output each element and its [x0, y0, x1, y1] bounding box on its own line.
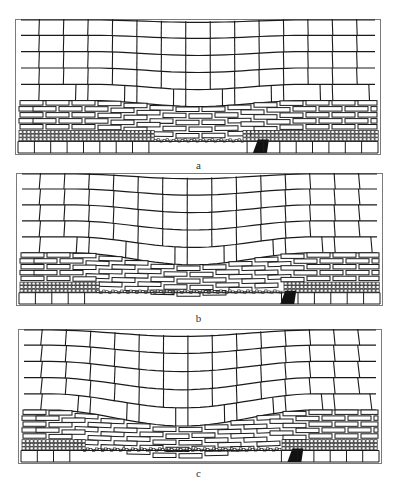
panel-c-caption: c [0, 467, 397, 479]
panel-b [16, 173, 383, 306]
panel-a-caption: a [0, 159, 397, 171]
block-model-drawing [16, 173, 383, 306]
block-model-drawing [18, 329, 382, 464]
panel-c [18, 329, 382, 464]
panel-a [15, 19, 381, 155]
panel-b-caption: b [0, 312, 397, 324]
block-model-drawing [15, 19, 381, 155]
